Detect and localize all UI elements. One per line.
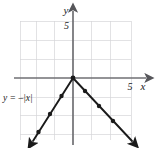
x-tick-label-5: 5 — [128, 81, 133, 92]
curve-point — [48, 112, 52, 116]
x-axis-label: x — [140, 80, 146, 92]
equation-label: y = –|x| — [2, 93, 33, 103]
figure-background — [0, 0, 156, 148]
curve-point-vertex — [71, 76, 76, 81]
curve-point — [97, 104, 101, 108]
y-axis-label: y — [63, 4, 69, 16]
y-tick-label-5: 5 — [64, 20, 69, 31]
curve-point — [111, 119, 115, 123]
curve-point — [83, 89, 87, 93]
curve-point — [59, 94, 63, 98]
graph-svg: y 5 5 x y = –|x| — [0, 0, 156, 148]
curve-point — [36, 130, 40, 134]
graph-figure: y 5 5 x y = –|x| — [0, 0, 156, 148]
